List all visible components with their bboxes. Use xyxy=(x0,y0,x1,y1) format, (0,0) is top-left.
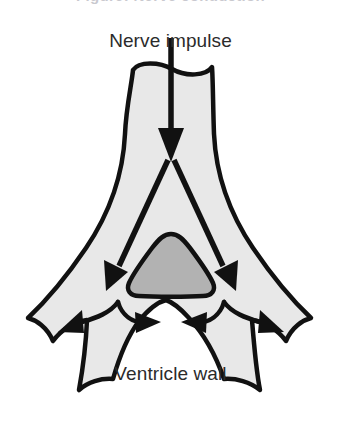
ventricle-wall-label: Ventricle wall xyxy=(0,363,341,385)
ventricle-nerve-impulse-figure: Figure: Nerve conduction xyxy=(0,0,341,428)
nerve-impulse-label: Nerve impulse xyxy=(0,30,341,52)
